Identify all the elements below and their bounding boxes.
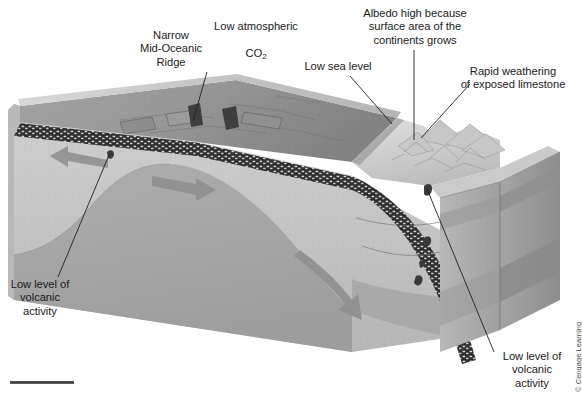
label-co2-line2: CO: [245, 47, 262, 59]
label-low-volcanic-activity-left: Low level of volcanic activity: [3, 278, 77, 318]
block-edge-bar: [10, 381, 74, 384]
label-low-sea-level: Low sea level: [295, 60, 381, 73]
label-rapid-weathering: Rapid weathering of exposed limestone: [449, 65, 577, 92]
label-narrow-mid-oceanic-ridge: Narrow Mid-Oceanic Ridge: [133, 29, 209, 69]
label-albedo-high: Albedo high because surface area of the …: [355, 7, 475, 47]
figure-container: Low atmospheric CO2 Narrow Mid-Oceanic R…: [0, 0, 582, 395]
label-co2-line1: Low atmospheric: [214, 20, 298, 32]
label-co2-subscript: 2: [262, 52, 266, 61]
label-low-atmospheric-co2: Low atmospheric CO2: [200, 7, 312, 62]
copyright-credit: © Cengage Learning: [574, 322, 582, 392]
label-low-volcanic-activity-right: Low level of volcanic activity: [495, 350, 569, 390]
